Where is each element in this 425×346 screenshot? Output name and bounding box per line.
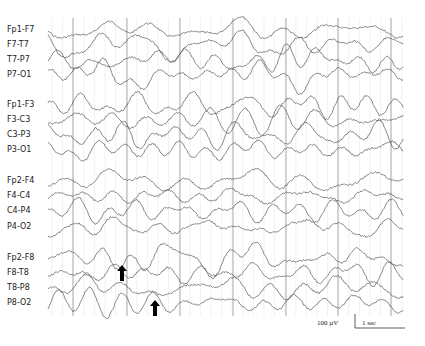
- channel-label: F4-C4: [7, 191, 30, 201]
- channel-label: T8-P8: [7, 283, 30, 293]
- channel-label: F7-T7: [7, 40, 29, 50]
- trace-fp1-f7: [48, 17, 403, 39]
- trace-fp1-f3: [48, 91, 403, 119]
- trace-fp2-f4: [48, 168, 403, 191]
- channel-label: C4-P4: [7, 206, 30, 216]
- trace-p3-o1: [48, 140, 403, 161]
- trace-f4-c4: [48, 188, 403, 204]
- channel-label: C3-P3: [7, 130, 30, 140]
- channel-label: F8-T8: [7, 268, 29, 278]
- arrow-up-icon: [150, 300, 160, 316]
- trace-f7-t7: [48, 30, 403, 62]
- amplitude-scale-label: 100 µV: [317, 319, 338, 327]
- minor-gridlines: [52, 18, 402, 316]
- arrow-up-icon: [117, 265, 127, 281]
- arrow-annotations: [117, 265, 160, 316]
- trace-c3-p3: [48, 119, 403, 151]
- trace-f8-t8: [48, 262, 403, 287]
- channel-label: Fp2-F4: [7, 176, 34, 186]
- channel-label: P4-O2: [7, 222, 31, 232]
- trace-t8-p8: [48, 274, 403, 300]
- channel-label: P3-O1: [7, 145, 31, 155]
- time-scale-label: 1 sec: [362, 319, 376, 327]
- channel-label: Fp2-F8: [7, 253, 34, 263]
- eeg-traces: [48, 17, 403, 319]
- channel-label: P7-O1: [7, 70, 31, 80]
- channel-label: F3-C3: [7, 115, 30, 125]
- channel-label: Fp1-F3: [7, 100, 34, 110]
- trace-fp2-f8: [48, 242, 403, 279]
- channel-label: Fp1-F7: [7, 25, 34, 35]
- trace-p4-o2: [48, 217, 403, 238]
- channel-label: P8-O2: [7, 298, 31, 308]
- trace-c4-p4: [48, 198, 403, 225]
- eeg-plot: [0, 0, 425, 346]
- channel-label: T7-P7: [7, 55, 30, 65]
- trace-p8-o2: [48, 287, 403, 319]
